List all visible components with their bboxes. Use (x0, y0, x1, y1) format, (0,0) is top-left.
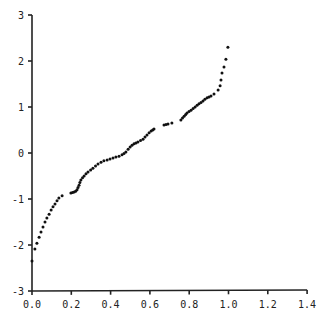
data-point (54, 203, 57, 206)
y-tick-label: -1 (12, 194, 24, 205)
x-axis-ticks: 0.00.20.40.60.81.01.21.4 (23, 290, 316, 310)
y-tick-label: 0 (18, 148, 24, 159)
data-point (57, 197, 60, 200)
data-point (167, 123, 170, 126)
data-point (223, 66, 226, 69)
data-point (114, 156, 117, 159)
data-point (118, 155, 121, 158)
data-point (42, 226, 45, 229)
axes (32, 15, 307, 291)
data-point (217, 89, 220, 92)
data-point (50, 209, 53, 212)
data-point (45, 216, 48, 219)
scatter-chart: 0.00.20.40.60.81.01.21.4 3210-1-2-3 (0, 0, 329, 319)
y-tick-label: -3 (12, 286, 24, 297)
data-point (56, 199, 59, 202)
data-point (91, 167, 94, 170)
y-tick-label: -2 (12, 240, 24, 251)
data-point (44, 221, 47, 224)
data-point (48, 213, 51, 216)
data-point (35, 242, 38, 245)
data-point (224, 58, 227, 61)
x-tick-label: 1.4 (298, 299, 316, 310)
data-points (31, 46, 230, 263)
data-point (40, 231, 43, 234)
data-point (97, 163, 100, 166)
data-point (31, 260, 34, 263)
y-axis-ticks: 3210-1-2-3 (12, 10, 32, 297)
data-point (61, 194, 64, 197)
data-point (210, 95, 213, 98)
data-point (221, 72, 224, 75)
x-tick-label: 1.2 (259, 299, 277, 310)
data-point (94, 164, 97, 167)
data-point (146, 134, 149, 137)
data-point (78, 184, 81, 187)
x-tick-label: 0.0 (23, 299, 41, 310)
data-point (142, 138, 145, 141)
data-point (153, 128, 156, 131)
x-tick-label: 0.6 (141, 299, 159, 310)
data-point (220, 78, 223, 81)
data-point (100, 161, 103, 164)
data-point (109, 158, 112, 161)
data-point (33, 248, 36, 251)
y-tick-label: 1 (18, 102, 24, 113)
x-tick-label: 0.8 (180, 299, 198, 310)
data-point (112, 157, 115, 160)
data-point (38, 236, 41, 239)
data-point (170, 122, 173, 125)
data-point (106, 158, 109, 161)
y-tick-label: 2 (18, 56, 24, 67)
data-point (219, 84, 222, 87)
data-point (127, 148, 130, 151)
data-point (213, 93, 216, 96)
data-point (83, 175, 86, 178)
data-point (124, 151, 127, 154)
x-tick-label: 0.2 (62, 299, 80, 310)
x-axis-line (32, 290, 307, 291)
x-tick-label: 0.4 (102, 299, 120, 310)
data-point (87, 170, 90, 173)
data-point (52, 205, 55, 208)
data-point (136, 141, 139, 144)
data-point (226, 46, 229, 49)
x-tick-label: 1.0 (219, 299, 237, 310)
data-point (102, 159, 105, 162)
y-tick-label: 3 (18, 10, 24, 21)
